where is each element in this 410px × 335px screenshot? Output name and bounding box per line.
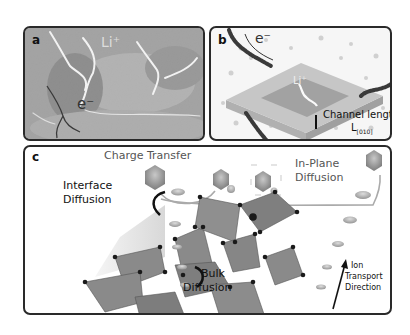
li-ion [316, 285, 326, 290]
panel-a-label: a [32, 33, 40, 47]
interface-label-2: Diffusion [63, 193, 112, 206]
li-ion [332, 241, 344, 247]
li-ion [343, 217, 357, 224]
channel-length-symbol: L[010] [351, 121, 373, 138]
bulk-label-2: Diffusion [183, 281, 232, 294]
li-ion [322, 265, 332, 270]
central-metal-atom [249, 213, 257, 221]
panel-a: a Li⁺ e⁻ [23, 26, 205, 141]
ion-transport-label-3: Direction [345, 283, 381, 293]
channel-length-label: Channel length [323, 108, 392, 121]
li-ion [171, 189, 185, 196]
charge-transfer-label: Charge Transfer [104, 149, 191, 162]
ion-transport-label-2: Transport [345, 272, 383, 282]
panel-c: c Charge Transfer In-Plane Diffusion Int… [23, 145, 392, 315]
ion-label: Li⁺ [293, 74, 307, 87]
panel-b: b e⁻ Li⁺ Channel length L[010] [209, 26, 392, 141]
solvated-ion-hexagon [145, 165, 165, 190]
in-plane-label-1: In-Plane [295, 157, 339, 170]
li-ion [355, 191, 371, 199]
li-ion [177, 265, 187, 270]
ion-hexagon [366, 150, 382, 171]
ion-transport-label-1: Ion [351, 261, 363, 271]
interface-label-1: Interface [63, 179, 112, 192]
li-ion [169, 221, 181, 227]
arrow-head [341, 259, 348, 269]
octahedron [265, 247, 303, 285]
ion-hexagon [255, 171, 271, 192]
ion-transport-arrow [333, 264, 345, 309]
electron-label: e⁻ [255, 32, 271, 45]
octahedron [240, 192, 297, 232]
li-ion [172, 245, 182, 250]
panel-c-label: c [32, 150, 39, 164]
electron-label: e⁻ [77, 98, 94, 111]
channel-subscript: [010] [357, 128, 373, 135]
in-plane-label-2: Diffusion [295, 171, 344, 184]
bulk-label-1: Bulk [201, 267, 225, 280]
octahedron [85, 272, 143, 312]
ion-label: Li⁺ [101, 36, 120, 49]
li-ion [227, 185, 235, 193]
desolvating-ion-hexagon [213, 169, 229, 190]
panel-b-label: b [218, 33, 227, 47]
